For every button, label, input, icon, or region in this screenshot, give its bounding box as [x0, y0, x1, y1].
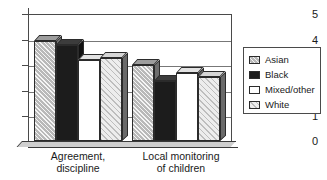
legend-swatch-black-icon	[249, 71, 260, 79]
legend-item-black[interactable]: Black	[249, 67, 316, 82]
x-axis-back	[22, 141, 236, 142]
bar-side-white-group-1	[220, 71, 226, 141]
bar-white-group-0[interactable]	[100, 58, 122, 141]
bar-black-group-0[interactable]	[56, 45, 78, 141]
legend-label-white: White	[265, 100, 289, 110]
legend: Asian Black Mixed/other White	[243, 47, 321, 114]
legend-item-white[interactable]: White	[249, 97, 316, 112]
bar-asian-group-0[interactable]	[34, 41, 56, 141]
legend-label-black: Black	[265, 70, 288, 80]
legend-swatch-mixed-other-icon	[249, 86, 260, 94]
bar-asian-group-1[interactable]	[132, 65, 154, 141]
bar-side-white-group-0	[122, 52, 128, 141]
category-label-1: Local monitoring of children	[128, 150, 234, 174]
x-axis-front	[28, 147, 238, 148]
bar-mixed-other-group-0[interactable]	[78, 60, 100, 141]
category-label-0: Agreement, discipline	[30, 150, 126, 174]
legend-swatch-asian-icon	[249, 56, 260, 64]
legend-item-mixed-other[interactable]: Mixed/other	[249, 82, 316, 97]
legend-label-mixed-other: Mixed/other	[265, 85, 315, 95]
bar-mixed-other-group-1[interactable]	[176, 73, 198, 141]
bar-white-group-1[interactable]	[198, 77, 220, 141]
legend-label-asian: Asian	[265, 55, 289, 65]
legend-swatch-white-icon	[249, 101, 260, 109]
legend-item-asian[interactable]: Asian	[249, 52, 316, 67]
bar-chart: 5 4 3 2 1 0 Agreement, discipline Local …	[0, 0, 327, 180]
bar-black-group-1[interactable]	[154, 81, 176, 141]
